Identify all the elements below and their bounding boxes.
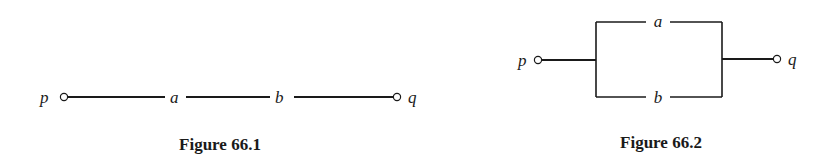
switch-a-label: a	[654, 12, 663, 31]
terminal-q-icon	[773, 55, 780, 62]
figure-caption: Figure 66.2	[620, 133, 702, 152]
terminal-q-icon	[393, 93, 400, 100]
terminal-q-label: q	[408, 88, 417, 107]
switch-b-label: b	[654, 88, 663, 107]
terminal-p-icon	[534, 56, 541, 63]
diagram-canvas: p a b q Figure 66.1 p a b q Figure 66.2	[0, 0, 838, 165]
terminal-q-label: q	[788, 50, 797, 69]
terminal-p-icon	[60, 93, 67, 100]
switch-b-label: b	[275, 88, 284, 107]
figure-66-2: p a b q Figure 66.2	[517, 12, 797, 152]
terminal-p-label: p	[39, 88, 49, 107]
figure-caption: Figure 66.1	[179, 135, 261, 154]
figure-66-1: p a b q Figure 66.1	[39, 88, 417, 154]
terminal-p-label: p	[517, 51, 527, 70]
switch-a-label: a	[170, 88, 179, 107]
